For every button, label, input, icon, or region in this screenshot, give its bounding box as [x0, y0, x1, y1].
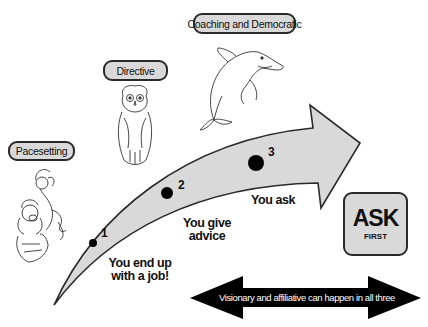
ask-first-main: ASK: [353, 207, 399, 229]
step-number-2: 2: [178, 178, 185, 192]
label-directive: Directive: [103, 60, 168, 81]
step-number-1: 1: [101, 226, 108, 240]
label-pacesetting-text: Pacesetting: [16, 145, 68, 157]
step-caption-1: You end up with a job!: [100, 257, 180, 283]
diagram-graphics: [0, 0, 428, 327]
step-dot-3: [248, 155, 264, 171]
step-caption-3-line1: You ask: [243, 194, 303, 207]
dolphin-illustration: [200, 48, 283, 130]
banner-text: Visionary and affiliative can happen in …: [212, 291, 402, 305]
step-dot-2: [161, 187, 173, 199]
step-caption-2-line2: advice: [172, 230, 242, 243]
ask-first-sub: FIRST: [364, 232, 387, 241]
owl-illustration: [118, 85, 151, 164]
step-caption-1-line2: with a job!: [100, 270, 180, 283]
step-caption-2: You give advice: [172, 217, 242, 243]
label-directive-text: Directive: [116, 65, 154, 77]
step-caption-3: You ask: [243, 194, 303, 207]
label-coaching-text: Coaching and Democratic: [188, 18, 302, 30]
label-pacesetting: Pacesetting: [8, 141, 75, 161]
leadership-styles-diagram: Pacesetting Directive Coaching and Democ…: [0, 0, 428, 327]
step-number-3: 3: [268, 145, 275, 159]
step-dot-1: [89, 239, 97, 247]
ask-first-callout: ASK FIRST: [343, 192, 408, 256]
monkey-illustration: [17, 170, 66, 262]
label-coaching-democratic: Coaching and Democratic: [193, 13, 296, 34]
